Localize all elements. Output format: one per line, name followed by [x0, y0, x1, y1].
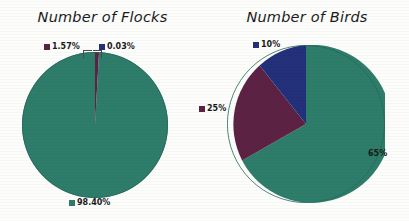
data-label-flocks-maroon: 1.57% — [44, 43, 80, 51]
data-label-flocks-blue: 0.03% — [99, 43, 135, 51]
leader-line-flocks-blue — [93, 50, 102, 58]
data-label-birds-maroon: 25% — [199, 105, 226, 113]
legend-swatch-maroon-icon — [199, 106, 205, 112]
chart-title-flocks: Number of Flocks — [0, 9, 205, 25]
pie-chart-flocks — [22, 52, 168, 198]
legend-swatch-blue-icon — [253, 42, 259, 48]
data-label-birds-blue: 10% — [253, 41, 280, 49]
pie-flocks-svg — [22, 52, 168, 198]
chart-panel-flocks: Number of Flocks 1.57% 0.03% — [0, 0, 205, 221]
data-label-birds-green-text: 65% — [368, 150, 387, 158]
legend-swatch-blue-icon — [99, 44, 105, 50]
chart-title-birds: Number of Birds — [205, 9, 409, 25]
legend-swatch-green-icon — [69, 200, 75, 206]
data-label-flocks-maroon-text: 1.57% — [52, 43, 80, 51]
legend-swatch-maroon-icon — [44, 44, 50, 50]
leader-line-flocks-maroon — [83, 50, 92, 58]
figure-canvas: Number of Flocks 1.57% 0.03% — [0, 0, 409, 221]
data-label-birds-blue-text: 10% — [261, 41, 280, 49]
pie-birds-svg — [227, 45, 385, 203]
data-label-birds-green: 65% — [360, 150, 387, 158]
pie-chart-birds — [227, 45, 385, 203]
data-label-flocks-green-text: 98.40% — [77, 199, 110, 207]
legend-swatch-green-icon — [360, 151, 366, 157]
chart-panel-birds: Number of Birds 10% 25% 65% — [205, 0, 409, 221]
data-label-flocks-blue-text: 0.03% — [107, 43, 135, 51]
data-label-flocks-green: 98.40% — [69, 199, 110, 207]
data-label-birds-maroon-text: 25% — [207, 105, 226, 113]
